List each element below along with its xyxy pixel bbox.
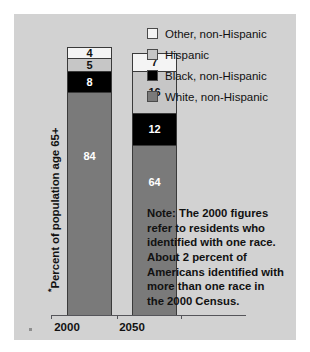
legend-label-other: Other, non-Hispanic [165,28,267,40]
legend-item-white-non-hispanic[interactable]: White, non-Hispanic [147,86,296,107]
bar-segment-2000-other-non-hispanic[interactable]: 4 [68,48,111,59]
legend-swatch-white-icon [147,91,158,102]
legend-swatch-black-icon [147,70,158,81]
bar-segment-2000-black-non-hispanic[interactable]: 8 [68,72,111,93]
legend-swatch-other-icon [147,28,158,39]
x-axis-baseline [51,315,246,316]
bar-segment-2000-white-non-hispanic[interactable]: 84 [68,93,111,315]
x-axis-label-2050: 2050 [97,321,167,333]
segment-value-label: 5 [86,60,92,71]
x-axis-tick-right [181,315,182,319]
corner-speck [29,328,32,331]
bar-segment-2050-black-non-hispanic[interactable]: 12 [133,114,176,146]
note-line: the 2000 Census. [147,294,296,309]
note-line: About 2 percent of [147,250,296,265]
note-line: identified with one race. [147,235,296,250]
chart-note: Note: The 2000 figures refer to resident… [147,206,296,309]
legend-label-hispanic: Hispanic [165,49,209,61]
legend-label-white: White, non-Hispanic [165,91,268,103]
x-axis-tick-left [51,315,52,319]
x-axis-tick-mid [117,315,118,319]
bar-segment-2000-hispanic[interactable]: 5 [68,59,111,72]
legend-item-hispanic[interactable]: Hispanic [147,44,296,65]
segment-value-label: 8 [86,77,92,88]
x-axis-label-2000: 2000 [32,321,102,333]
segment-value-label: 64 [148,177,160,188]
segment-value-label: 4 [86,48,92,59]
bar-2000[interactable]: 45884 [67,47,112,316]
legend: Other, non-Hispanic Hispanic Black, non-… [147,23,296,107]
note-line: refer to residents who [147,221,296,236]
legend-swatch-hispanic-icon [147,49,158,60]
segment-value-label: 12 [148,124,160,135]
legend-label-black: Black, non-Hispanic [165,70,267,82]
y-axis-label-container: *Percent of population age 65+ [30,74,48,294]
note-line: Americans identified with [147,265,296,280]
legend-item-other-non-hispanic[interactable]: Other, non-Hispanic [147,23,296,44]
segment-value-label: 84 [83,151,95,162]
note-line: more than one race in [147,279,296,294]
chart-panel: *Percent of population age 65+ 45884 716… [14,14,296,340]
note-line: Note: The 2000 figures [147,206,296,221]
legend-item-black-non-hispanic[interactable]: Black, non-Hispanic [147,65,296,86]
